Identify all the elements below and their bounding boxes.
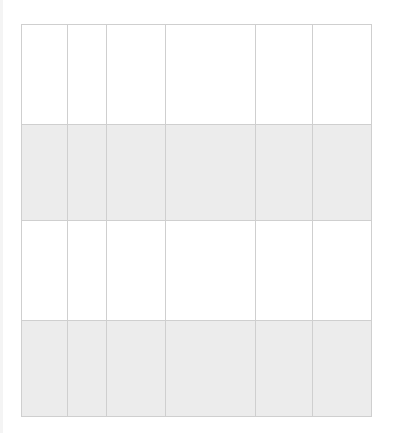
table-cell[interactable] <box>313 25 372 125</box>
table-cell[interactable] <box>166 125 256 221</box>
table-cell[interactable] <box>166 25 256 125</box>
table-cell[interactable] <box>107 125 166 221</box>
table-cell[interactable] <box>313 125 372 221</box>
left-edge-strip <box>0 0 3 433</box>
table-cell[interactable] <box>166 221 256 321</box>
table-cell[interactable] <box>22 321 68 417</box>
table-cell[interactable] <box>68 321 107 417</box>
table-cell[interactable] <box>68 125 107 221</box>
table-cell[interactable] <box>107 221 166 321</box>
table-row <box>22 125 372 221</box>
page <box>0 0 393 433</box>
table-row <box>22 321 372 417</box>
table-cell[interactable] <box>68 25 107 125</box>
table-cell[interactable] <box>256 321 313 417</box>
table-cell[interactable] <box>22 221 68 321</box>
table-cell[interactable] <box>256 221 313 321</box>
table-cell[interactable] <box>107 25 166 125</box>
table-cell[interactable] <box>313 221 372 321</box>
table-cell[interactable] <box>107 321 166 417</box>
table-row <box>22 25 372 125</box>
empty-grid-table <box>21 24 372 417</box>
table-cell[interactable] <box>256 125 313 221</box>
table-cell[interactable] <box>166 321 256 417</box>
table-cell[interactable] <box>313 321 372 417</box>
table-cell[interactable] <box>256 25 313 125</box>
table-cell[interactable] <box>22 125 68 221</box>
table-cell[interactable] <box>22 25 68 125</box>
table-row <box>22 221 372 321</box>
table-cell[interactable] <box>68 221 107 321</box>
